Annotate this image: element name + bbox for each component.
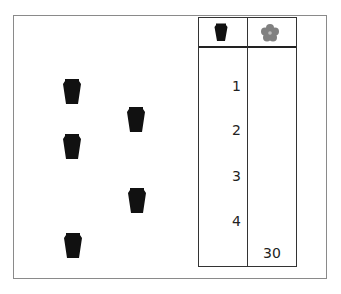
jar-icon <box>62 133 82 161</box>
jar-icon <box>127 187 147 215</box>
column-divider <box>247 18 248 266</box>
jar-count-3: 3 <box>232 168 241 184</box>
jar-icon <box>214 23 228 42</box>
jar-count-4: 4 <box>232 213 241 229</box>
flower-icon <box>260 23 280 43</box>
jar-icon <box>62 78 82 106</box>
jar-count-1: 1 <box>232 78 241 94</box>
jar-icon <box>63 232 83 260</box>
jar-icon <box>126 106 146 134</box>
jar-count-2: 2 <box>232 122 241 138</box>
flower-total: 30 <box>263 245 281 261</box>
tally-table: 1 2 3 4 30 <box>198 17 297 267</box>
